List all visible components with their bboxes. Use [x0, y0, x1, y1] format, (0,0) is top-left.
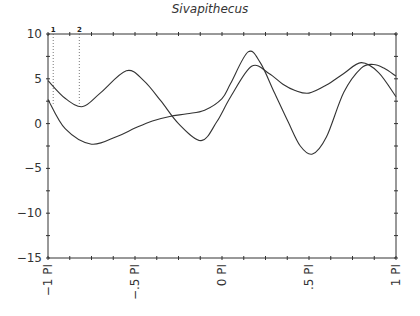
y-tick-label: −10 [17, 206, 42, 220]
y-tick-label: 0 [34, 117, 42, 131]
data-series [48, 51, 396, 154]
line-chart: 1050−5−10−15−1 PI−.5 PI0 PI.5 PI1 PI 12 … [0, 0, 420, 316]
chart-title: Sivapithecus [172, 2, 249, 16]
marker-label: 2 [77, 26, 82, 34]
y-tick-label: −5 [24, 161, 42, 175]
y-tick-label: −15 [17, 251, 42, 265]
series-line-curve-2 [48, 51, 396, 154]
y-tick-label: 10 [27, 27, 42, 41]
axes: 1050−5−10−15−1 PI−.5 PI0 PI.5 PI1 PI [17, 27, 403, 300]
marker-label: 1 [51, 26, 56, 34]
y-tick-label: 5 [34, 72, 42, 86]
x-tick-label: .5 PI [302, 264, 316, 290]
x-tick-label: −.5 PI [128, 264, 142, 300]
x-tick-label: 0 PI [215, 264, 229, 286]
series-line-curve-1 [48, 63, 396, 141]
x-tick-label: −1 PI [41, 264, 55, 296]
reference-markers: 12 [51, 26, 82, 104]
x-tick-label: 1 PI [389, 264, 403, 286]
